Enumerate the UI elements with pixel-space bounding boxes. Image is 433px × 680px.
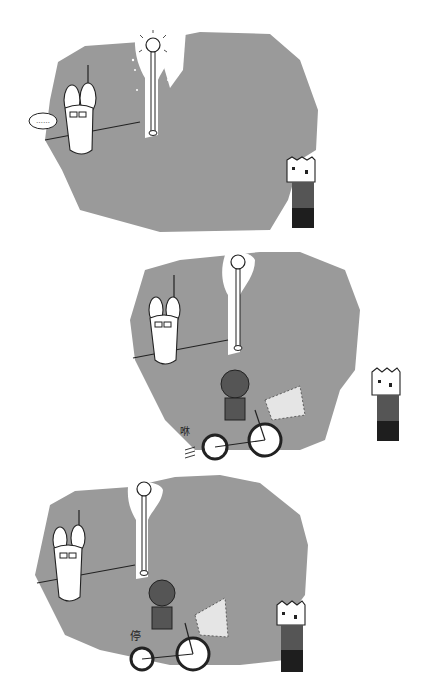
speech-bubble: ……: [29, 113, 57, 129]
svg-text:咻: 咻: [180, 425, 190, 437]
comic-panel-1: ……: [0, 0, 433, 240]
box-head-person-icon: [277, 601, 305, 672]
comic-panel-2: 咻: [0, 240, 433, 470]
box-head-person-icon: [287, 157, 315, 228]
comic-panel-3: 停: [0, 465, 433, 680]
box-head-person-icon: [372, 368, 400, 441]
svg-text:停: 停: [130, 629, 141, 643]
rabbit-icon: [64, 83, 96, 154]
svg-text:……: ……: [36, 117, 50, 125]
